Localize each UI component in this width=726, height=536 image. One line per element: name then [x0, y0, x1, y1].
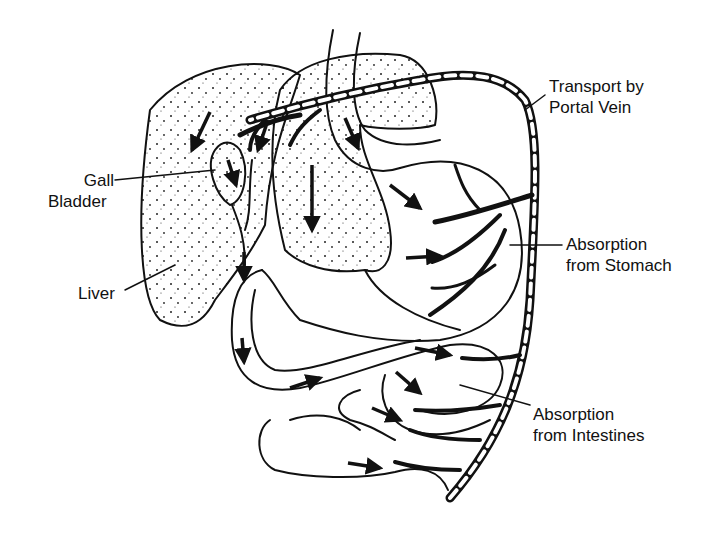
intestines-leader [460, 385, 530, 405]
label-portal-vein: Transport by Portal Vein [549, 76, 644, 118]
intestine-coil [382, 375, 490, 434]
label-stomach: Absorption from Stomach [566, 234, 672, 276]
label-liver: Liver [78, 283, 115, 304]
label-gall-bladder-line2: Bladder [48, 191, 107, 212]
label-gall-bladder: Gall [72, 170, 114, 191]
label-intestines: Absorption from Intestines [533, 404, 645, 446]
